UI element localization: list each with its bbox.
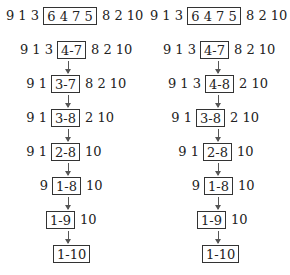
sequence-row: 1-10 bbox=[0, 243, 145, 265]
sequence-row: 1-910 bbox=[0, 209, 145, 231]
sequence-row: 9 13-82 10 bbox=[145, 107, 290, 129]
merged-range-box: 1-9 bbox=[197, 211, 226, 229]
sequence-row: 9 13-78 2 10 bbox=[0, 73, 145, 95]
prefix-values: 9 1 bbox=[26, 73, 47, 95]
merged-range-box: 1-10 bbox=[53, 245, 90, 263]
suffix-values: 10 bbox=[86, 175, 103, 197]
merged-range-box: 4-8 bbox=[205, 75, 234, 93]
prefix-values: 9 1 bbox=[178, 141, 199, 163]
suffix-values: 8 2 10 bbox=[102, 5, 143, 27]
sequence-row: 91-810 bbox=[145, 175, 290, 197]
sequence-row: 1-10 bbox=[145, 243, 290, 265]
column-left: 9 1 36 4 7 58 2 109 1 34-78 2 109 13-78 … bbox=[0, 0, 145, 275]
sequence-row: 9 1 34-82 10 bbox=[145, 73, 290, 95]
prefix-values: 9 1 bbox=[26, 141, 47, 163]
prefix-values: 9 1 3 bbox=[20, 39, 53, 61]
column-right: 9 1 36 4 7 58 2 109 1 34-78 2 109 1 34-8… bbox=[145, 0, 290, 275]
merged-range-box: 4-7 bbox=[200, 41, 229, 59]
merged-range-box: 3-7 bbox=[51, 75, 80, 93]
suffix-values: 8 2 10 bbox=[234, 39, 275, 61]
merged-range-box: 2-8 bbox=[203, 143, 232, 161]
sequence-row: 9 12-810 bbox=[145, 141, 290, 163]
prefix-values: 9 1 3 bbox=[150, 5, 183, 27]
merged-range-box: 6 4 7 5 bbox=[187, 7, 241, 25]
sequence-row: 9 1 36 4 7 58 2 10 bbox=[145, 5, 290, 27]
suffix-values: 10 bbox=[231, 209, 248, 231]
sequence-row: 9 13-82 10 bbox=[0, 107, 145, 129]
merged-range-box: 3-8 bbox=[51, 109, 80, 127]
sequence-row: 9 1 34-78 2 10 bbox=[0, 39, 145, 61]
prefix-values: 9 1 3 bbox=[6, 5, 39, 27]
merged-range-box: 1-9 bbox=[46, 211, 75, 229]
suffix-values: 8 2 10 bbox=[85, 73, 126, 95]
merged-range-box: 1-8 bbox=[52, 177, 81, 195]
suffix-values: 8 2 10 bbox=[91, 39, 132, 61]
suffix-values: 2 10 bbox=[85, 107, 114, 129]
sequence-row: 9 1 34-78 2 10 bbox=[145, 39, 290, 61]
sequence-row: 91-810 bbox=[0, 175, 145, 197]
merged-range-box: 2-8 bbox=[51, 143, 80, 161]
merged-range-box: 6 4 7 5 bbox=[43, 7, 97, 25]
suffix-values: 8 2 10 bbox=[246, 5, 287, 27]
prefix-values: 9 1 bbox=[171, 107, 192, 129]
suffix-values: 10 bbox=[85, 141, 102, 163]
prefix-values: 9 bbox=[40, 175, 48, 197]
merged-range-box: 1-8 bbox=[204, 177, 233, 195]
prefix-values: 9 1 3 bbox=[168, 73, 201, 95]
sequence-row: 9 12-810 bbox=[0, 141, 145, 163]
prefix-values: 9 bbox=[192, 175, 200, 197]
prefix-values: 9 1 bbox=[26, 107, 47, 129]
sequence-row: 9 1 36 4 7 58 2 10 bbox=[0, 5, 145, 27]
suffix-values: 10 bbox=[80, 209, 97, 231]
suffix-values: 10 bbox=[238, 175, 255, 197]
merged-range-box: 3-8 bbox=[196, 109, 225, 127]
merged-range-box: 4-7 bbox=[57, 41, 86, 59]
suffix-values: 2 10 bbox=[239, 73, 268, 95]
suffix-values: 2 10 bbox=[230, 107, 259, 129]
suffix-values: 10 bbox=[237, 141, 254, 163]
prefix-values: 9 1 3 bbox=[163, 39, 196, 61]
sequence-row: 1-910 bbox=[145, 209, 290, 231]
merged-range-box: 1-10 bbox=[202, 245, 239, 263]
